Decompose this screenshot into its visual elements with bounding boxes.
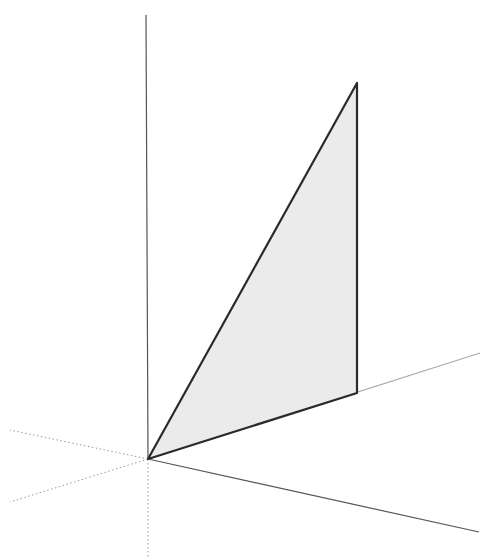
left-upper-dotted-axis (10, 430, 148, 459)
dotted-axes (10, 430, 148, 558)
vertical-axis (146, 15, 148, 459)
right-lower-axis (148, 459, 479, 532)
shaded-triangle-face (148, 83, 357, 459)
diagram-canvas (0, 0, 502, 558)
left-lower-dotted-axis (10, 459, 148, 502)
